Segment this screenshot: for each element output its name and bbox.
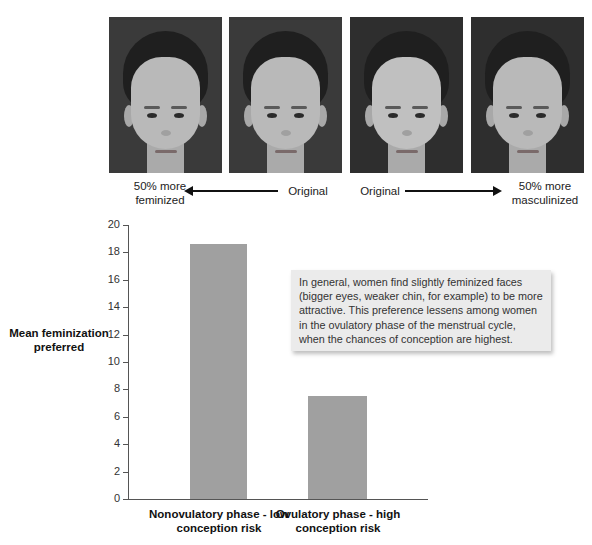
arrow-right-icon [405, 190, 500, 192]
y-axis-label-line: preferred [4, 340, 114, 354]
caption-line: masculinized [500, 193, 590, 207]
caption-masculinized: 50% more masculinized [500, 179, 590, 207]
annotation-callout: In general, women find slightly feminize… [291, 270, 551, 351]
y-tick-label: 8 [96, 382, 120, 394]
y-tick-label: 4 [96, 437, 120, 449]
y-tick-mark [123, 335, 128, 336]
y-tick-label: 20 [96, 218, 120, 230]
caption-original-female: Original [355, 184, 405, 198]
y-tick-mark [123, 444, 128, 445]
face-image-original-male [229, 17, 342, 173]
y-tick-mark [123, 362, 128, 363]
bar-ovulatory [308, 396, 367, 499]
bar-nonovulatory [190, 244, 247, 499]
y-tick-mark [123, 472, 128, 473]
y-tick-mark [123, 280, 128, 281]
y-tick-mark [123, 389, 128, 390]
y-tick-label: 18 [96, 245, 120, 257]
y-tick-label: 16 [96, 273, 120, 285]
y-tick-mark [123, 252, 128, 253]
face-image-original-female [350, 17, 463, 173]
y-tick-label: 12 [96, 328, 120, 340]
y-tick-label: 0 [96, 492, 120, 504]
y-tick-label: 14 [96, 300, 120, 312]
face-image-feminized [109, 17, 222, 173]
y-axis [128, 225, 129, 500]
y-tick-label: 6 [96, 410, 120, 422]
caption-line: 50% more [500, 179, 590, 193]
x-axis [128, 499, 428, 500]
category-label-line: Ovulatory phase - high [263, 507, 413, 521]
y-tick-label: 10 [96, 355, 120, 367]
y-tick-label: 2 [96, 465, 120, 477]
y-tick-mark [123, 307, 128, 308]
category-label-line: conception risk [263, 521, 413, 535]
caption-original-male: Original [283, 184, 333, 198]
y-tick-mark [123, 225, 128, 226]
face-image-masculinized [471, 17, 584, 173]
y-tick-mark [123, 417, 128, 418]
category-label-ovulatory: Ovulatory phase - high conception risk [263, 507, 413, 535]
y-tick-mark [123, 499, 128, 500]
arrow-left-icon [186, 190, 278, 192]
